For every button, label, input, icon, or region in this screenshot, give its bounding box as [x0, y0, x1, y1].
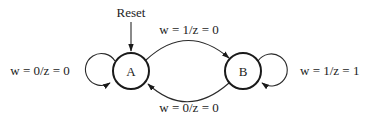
arc-b-to-a — [148, 83, 229, 102]
state-diagram: Reset w = 0/z = 0 w = 1/z = 0 w = 0/z = … — [0, 0, 377, 123]
transition-b-to-b: w = 1/z = 1 — [258, 54, 359, 86]
reset-label: Reset — [117, 5, 146, 20]
transition-label-a-a: w = 0/z = 0 — [10, 63, 69, 78]
state-a-label: A — [126, 64, 136, 79]
transition-a-to-a: w = 0/z = 0 — [10, 53, 115, 85]
self-loop-a — [85, 53, 115, 85]
transition-b-to-a: w = 0/z = 0 — [148, 83, 229, 115]
arc-a-to-b — [146, 40, 229, 60]
state-b: B — [225, 53, 261, 89]
state-a: A — [113, 53, 149, 89]
transition-label-a-b: w = 1/z = 0 — [159, 22, 218, 37]
self-loop-b — [258, 54, 287, 86]
transition-label-b-a: w = 0/z = 0 — [159, 100, 218, 115]
transition-label-b-b: w = 1/z = 1 — [300, 63, 359, 78]
reset-marker: Reset — [117, 5, 146, 51]
state-b-label: B — [239, 64, 248, 79]
transition-a-to-b: w = 1/z = 0 — [146, 22, 229, 60]
